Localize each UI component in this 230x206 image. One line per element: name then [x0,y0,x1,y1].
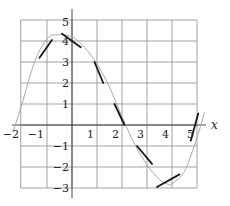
x-tick-label: 2 [112,128,119,141]
y-tick-label: 2 [62,77,69,90]
y-tick-labels: 54321−1−2−3 [53,16,69,195]
y-tick-label: 4 [62,35,69,48]
x-tick-label: 4 [162,128,169,141]
x-tick-label: 5 [187,128,194,141]
grid [21,20,197,188]
tangent-segment [40,40,53,58]
y-tick-label: −2 [53,161,69,174]
x-tick-labels: −2−112345 [3,128,194,141]
y-tick-label: −3 [53,182,69,195]
axes [12,9,206,198]
x-tick-label: 3 [137,128,144,141]
chart-canvas: −2−112345 54321−1−2−3 x [0,0,230,206]
x-tick-label: −1 [28,128,44,141]
tangent-segment [115,104,125,125]
x-tick-label: −2 [3,128,19,141]
y-tick-label: 3 [62,56,69,69]
y-tick-label: 5 [62,16,69,29]
y-tick-label: −1 [53,140,69,153]
x-tick-label: 1 [87,128,94,141]
x-axis-label: x [211,118,218,132]
function-curve [13,35,204,185]
y-tick-label: 1 [62,98,69,111]
